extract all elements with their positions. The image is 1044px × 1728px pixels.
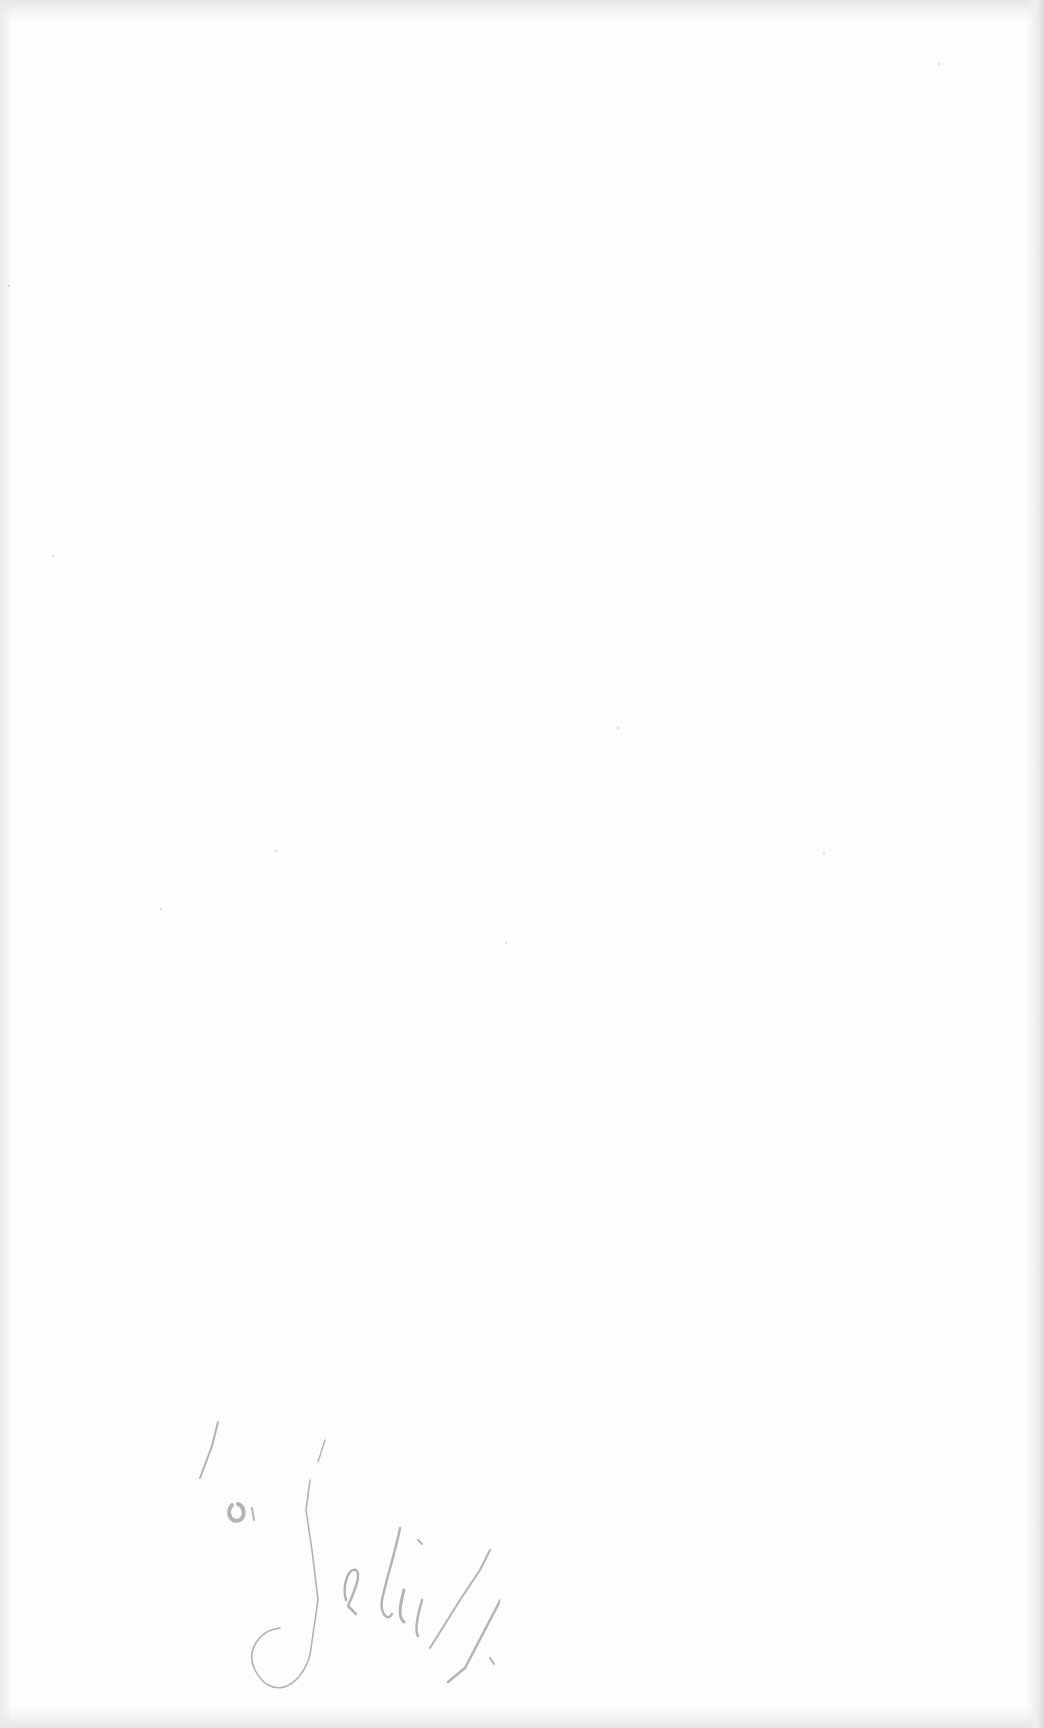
scan-speck xyxy=(505,942,507,944)
scan-speck xyxy=(52,555,54,557)
scan-speck xyxy=(938,63,940,65)
scan-speck xyxy=(823,852,825,854)
scan-speck xyxy=(617,727,619,729)
scan-edge-top xyxy=(0,0,1044,22)
handwritten-signature: Zeliff xyxy=(160,1400,500,1720)
signature-strokes xyxy=(160,1400,500,1720)
scan-edge-right xyxy=(1026,0,1044,1728)
scan-speck xyxy=(275,850,277,852)
scan-edge-left xyxy=(0,0,12,1728)
scanned-page: Zeliff xyxy=(0,0,1044,1728)
scan-edge-bottom xyxy=(0,1706,1044,1728)
scan-speck xyxy=(160,908,162,910)
scan-speck xyxy=(8,285,10,287)
